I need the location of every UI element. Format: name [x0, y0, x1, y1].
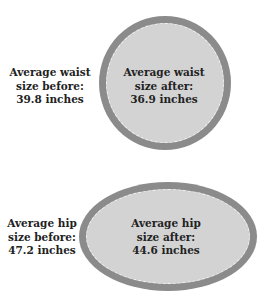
waist-after-label: Average waist size after: 36.9 inches: [123, 66, 204, 107]
hip-before-value: 47.2 inches: [7, 244, 76, 258]
hip-after-line2: size after:: [131, 231, 200, 245]
waist-before-line2: size before:: [9, 80, 90, 94]
hip-after-line1: Average hip: [131, 217, 200, 231]
waist-after-value: 36.9 inches: [123, 93, 204, 107]
hip-before-line2: size before:: [7, 231, 76, 245]
waist-after-line1: Average waist: [123, 66, 204, 80]
hip-before-label: Average hip size before: 47.2 inches: [7, 217, 76, 258]
hip-after-value: 44.6 inches: [131, 244, 200, 258]
hip-before-line1: Average hip: [7, 217, 76, 231]
waist-before-line1: Average waist: [9, 66, 90, 80]
waist-after-line2: size after:: [123, 80, 204, 94]
hip-after-label: Average hip size after: 44.6 inches: [131, 217, 200, 258]
waist-before-label: Average waist size before: 39.8 inches: [9, 66, 90, 107]
waist-before-value: 39.8 inches: [9, 93, 90, 107]
